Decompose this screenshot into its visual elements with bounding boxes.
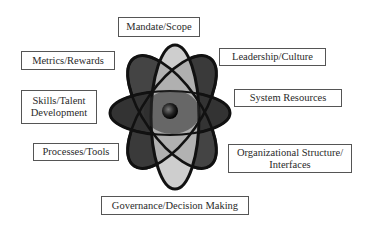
label-skills-talent: Skills/Talent Development [21,90,97,124]
label-org-structure: Organizational Structure/ Interfaces [228,144,352,173]
label-governance: Governance/Decision Making [101,196,249,215]
label-text: Organizational Structure/ [237,147,343,159]
label-mandate-scope: Mandate/Scope [118,17,200,37]
label-text: Mandate/Scope [126,21,191,33]
nucleus-icon [162,103,178,119]
label-text: Leadership/Culture [232,51,313,63]
label-text: Governance/Decision Making [112,200,238,212]
label-metrics-rewards: Metrics/Rewards [21,51,115,70]
label-text: Metrics/Rewards [32,55,104,67]
label-text: Development [31,107,88,119]
label-text: System Resources [250,92,327,104]
label-processes-tools: Processes/Tools [33,143,119,161]
label-leadership-culture: Leadership/Culture [219,48,326,66]
label-text: Processes/Tools [43,146,110,158]
label-system-resources: System Resources [234,89,342,107]
label-text: Interfaces [269,159,310,171]
label-text: Skills/Talent [33,95,86,107]
